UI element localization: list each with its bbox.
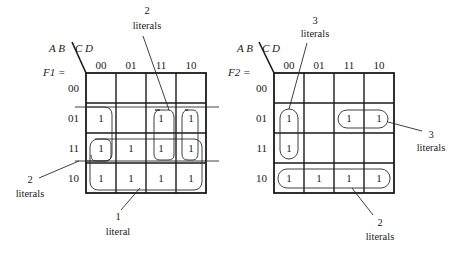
- cell-value: 1: [316, 172, 322, 184]
- row-header: 10: [256, 172, 268, 184]
- col-header: 11: [156, 59, 167, 71]
- col-header: 01: [314, 59, 325, 71]
- cell-value: 1: [158, 172, 164, 184]
- cell-value: 1: [128, 172, 134, 184]
- annotation-number: 2: [377, 217, 382, 228]
- annotation-text: literals: [417, 142, 446, 153]
- row-variable-label: A B: [48, 42, 65, 54]
- annotation-number: 2: [27, 174, 32, 185]
- row-header: 01: [256, 112, 267, 124]
- annotation-number: 1: [115, 211, 120, 222]
- cell-value: 1: [286, 112, 292, 124]
- cell-value: 1: [376, 112, 382, 124]
- cell-value: 1: [98, 172, 104, 184]
- annotation-leader: [121, 188, 140, 210]
- cell-value: 1: [346, 112, 352, 124]
- cell-value: 1: [158, 112, 164, 124]
- kmap-f1: A B C D F1 = 00 01 11 10 00 01 11 10 1 1…: [16, 5, 219, 237]
- cell-value: 1: [188, 172, 194, 184]
- row-header: 11: [256, 142, 267, 154]
- cell-value: 1: [376, 172, 382, 184]
- col-header: 01: [126, 59, 137, 71]
- row-header: 10: [68, 172, 80, 184]
- annotation-number: 3: [428, 129, 433, 140]
- function-label: F2 =: [227, 66, 250, 78]
- annotation-text: literals: [16, 188, 45, 199]
- annotation-leader: [352, 188, 373, 215]
- cell-value: 1: [286, 142, 292, 154]
- kmap-f2: A B C D F2 = 00 01 11 10 00 01 11 10 1 1…: [227, 15, 445, 242]
- cell-value: 1: [346, 172, 352, 184]
- cell-value: 1: [188, 142, 194, 154]
- karnaugh-maps-diagram: A B C D F1 = 00 01 11 10 00 01 11 10 1 1…: [0, 0, 457, 254]
- function-label: F1 =: [42, 66, 65, 78]
- annotation-number: 3: [312, 15, 317, 26]
- annotation-text: literal: [106, 226, 131, 237]
- annotation-text: literals: [366, 231, 395, 242]
- row-header: 01: [68, 112, 79, 124]
- col-header: 00: [284, 59, 296, 71]
- cell-value: 1: [98, 112, 104, 124]
- group-loop: [154, 110, 174, 160]
- col-header: 10: [374, 59, 386, 71]
- annotation-number: 2: [144, 5, 149, 16]
- row-variable-label: A B: [236, 42, 253, 54]
- row-header: 00: [256, 82, 268, 94]
- cell-value: 1: [188, 112, 194, 124]
- cell-value: 1: [158, 142, 164, 154]
- annotation-text: literals: [133, 20, 162, 31]
- row-header: 00: [68, 82, 80, 94]
- col-header: 11: [344, 59, 355, 71]
- annotation-text: literals: [301, 28, 330, 39]
- cell-value: 1: [128, 142, 134, 154]
- row-header: 11: [68, 142, 79, 154]
- col-header: 10: [186, 59, 198, 71]
- cell-value: 1: [286, 172, 292, 184]
- cell-value: 1: [98, 142, 104, 154]
- col-header: 00: [96, 59, 108, 71]
- col-variable-label: C D: [75, 42, 93, 54]
